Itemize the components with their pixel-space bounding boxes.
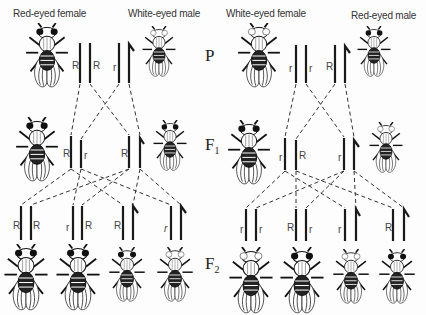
allele-label: R bbox=[33, 220, 40, 231]
allele-label: r bbox=[338, 152, 341, 163]
allele-label: R bbox=[121, 148, 128, 159]
allele-label: r bbox=[289, 63, 292, 74]
allele-label: r bbox=[240, 224, 243, 235]
fly-red-eyed-female bbox=[3, 244, 49, 312]
allele-label: R bbox=[299, 150, 306, 161]
inheritance-diagram: Red-eyed female White-eyed male White-ey… bbox=[0, 0, 426, 315]
allele-label: r bbox=[84, 150, 87, 161]
allele-label: R bbox=[114, 220, 121, 231]
fly-red-eyed-female bbox=[55, 244, 101, 312]
allele-label: R bbox=[63, 148, 70, 159]
fly-red-eyed-male bbox=[106, 247, 148, 303]
allele-label: r bbox=[309, 224, 312, 235]
allele-label: R bbox=[13, 220, 20, 231]
fly-red-eyed-female bbox=[15, 117, 59, 183]
allele-label: r bbox=[259, 224, 262, 235]
allele-label: R bbox=[287, 222, 294, 233]
allele-label: r bbox=[113, 62, 116, 73]
allele-label: r bbox=[66, 222, 69, 233]
fly-white-eyed-female bbox=[237, 23, 281, 89]
allele-label: R bbox=[326, 61, 333, 72]
allele-label: R bbox=[93, 60, 100, 71]
fly-white-eyed-female bbox=[228, 247, 274, 315]
allele-label: r bbox=[309, 63, 312, 74]
fly-white-eyed-male bbox=[139, 26, 179, 78]
fly-red-eyed-male bbox=[376, 249, 418, 305]
fly-red-eyed-male bbox=[150, 120, 190, 172]
fly-white-eyed-male bbox=[330, 249, 372, 305]
allele-label: R bbox=[385, 222, 392, 233]
allele-label: R bbox=[85, 220, 92, 231]
allele-label: r bbox=[338, 224, 341, 235]
fly-red-eyed-female bbox=[279, 247, 325, 315]
fly-white-eyed-male bbox=[154, 247, 196, 303]
fly-red-eyed-female bbox=[25, 23, 69, 89]
fly-red-eyed-male bbox=[354, 26, 394, 78]
allele-label: r bbox=[279, 152, 282, 163]
allele-label: R bbox=[72, 60, 79, 71]
fly-white-eyed-male bbox=[366, 122, 406, 174]
fly-red-eyed-female bbox=[227, 120, 271, 186]
allele-label: r bbox=[164, 223, 167, 234]
